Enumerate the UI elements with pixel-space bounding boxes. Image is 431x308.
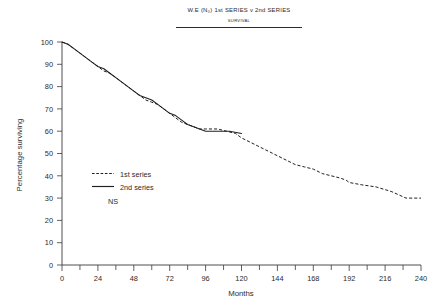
survival-chart-figure: W.E (N₀) 1st SERIES v 2nd SERIES SURVIVA… (0, 0, 431, 308)
y-tick-label: 30 (45, 194, 53, 203)
y-tick-label: 80 (45, 82, 53, 91)
y-tick-label: 90 (45, 60, 53, 69)
legend-note-ns: NS (108, 197, 118, 206)
chart-legend: 1st series 2nd series NS (92, 170, 154, 206)
survival-chart-svg: W.E (N₀) 1st SERIES v 2nd SERIES SURVIVA… (0, 0, 431, 308)
legend-label-2nd-series: 2nd series (120, 183, 154, 192)
x-tick-label: 0 (60, 274, 64, 283)
x-tick-label: 168 (307, 274, 319, 283)
chart-title: W.E (N₀) 1st SERIES v 2nd SERIES (187, 7, 290, 13)
y-tick-label: 10 (45, 238, 53, 247)
y-axis-ticks: 0102030405060708090100 (41, 38, 62, 270)
x-axis-ticks: 024487296120144168192216240 (60, 265, 427, 283)
y-tick-label: 70 (45, 105, 53, 114)
y-axis-title: Percentage surviving (15, 119, 24, 192)
legend-label-1st-series: 1st series (120, 170, 152, 179)
chart-title-block: W.E (N₀) 1st SERIES v 2nd SERIES SURVIVA… (176, 7, 302, 28)
x-tick-label: 240 (415, 274, 427, 283)
series-line-1st-series (62, 42, 421, 198)
x-tick-label: 96 (201, 274, 209, 283)
y-tick-label: 100 (41, 38, 53, 47)
x-tick-label: 48 (130, 274, 138, 283)
chart-subtitle: SURVIVAL (228, 18, 251, 23)
x-tick-label: 120 (235, 274, 247, 283)
y-tick-label: 0 (49, 261, 53, 270)
y-tick-label: 20 (45, 216, 53, 225)
x-tick-label: 192 (343, 274, 355, 283)
y-tick-label: 40 (45, 172, 53, 181)
x-tick-label: 216 (379, 274, 391, 283)
series-line-2nd-series (62, 42, 242, 133)
y-tick-label: 50 (45, 149, 53, 158)
x-tick-label: 144 (271, 274, 283, 283)
x-tick-label: 24 (94, 274, 102, 283)
y-tick-label: 60 (45, 127, 53, 136)
x-axis-title: Months (228, 289, 254, 298)
x-tick-label: 72 (166, 274, 174, 283)
